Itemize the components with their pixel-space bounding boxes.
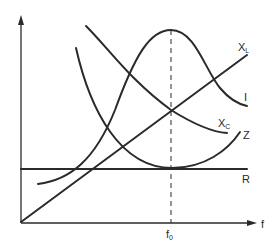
label-z: Z [243,129,250,141]
curve-xc [86,26,227,133]
label-xc: XC [218,117,230,130]
resonance-diagram: XL I XC Z R f f0 [0,0,279,249]
y-axis-arrow-icon [18,15,24,25]
label-r: R [242,173,250,185]
label-xl: XL [238,41,249,54]
x-axis-arrow-icon [247,220,257,226]
label-i: I [244,91,247,103]
curve-xl [21,55,247,222]
curve-z [76,48,240,168]
label-f0: f0 [166,228,173,241]
label-x-axis-f: f [261,218,265,230]
